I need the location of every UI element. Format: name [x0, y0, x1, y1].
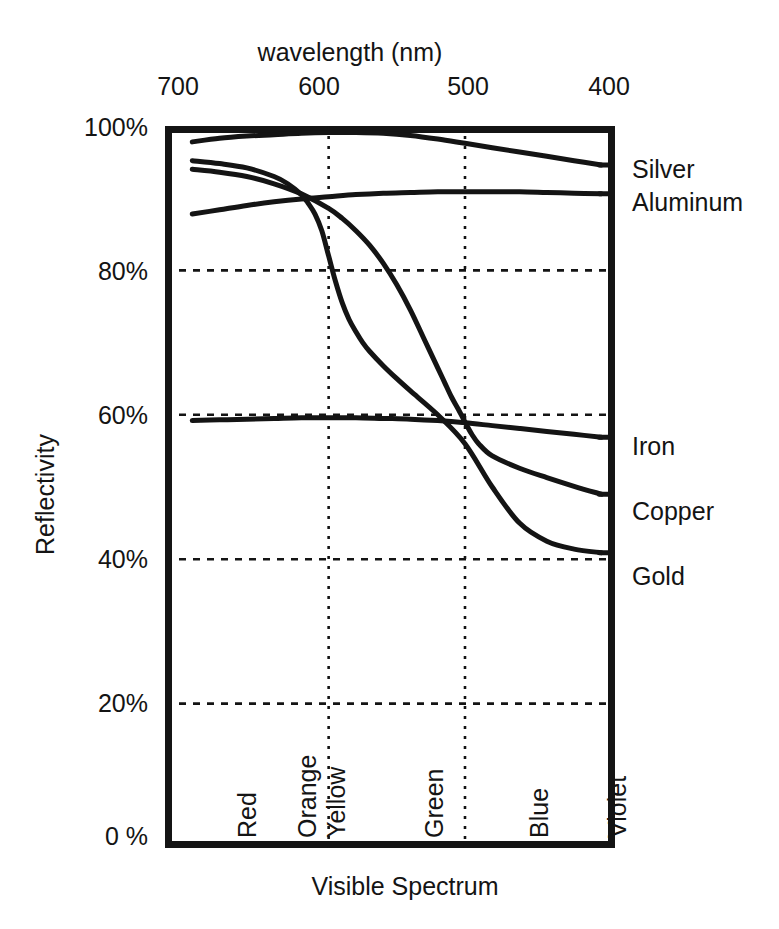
y-tick-label-100: 100% — [38, 113, 148, 142]
x-axis-title-top: wavelength (nm) — [0, 38, 700, 67]
band-label-blue: Blue — [525, 788, 554, 838]
plot-canvas — [165, 126, 615, 848]
x-tick-label-400: 400 — [564, 72, 654, 101]
band-label-violet: Violet — [603, 776, 632, 838]
band-label-yellow: Yellow — [322, 767, 351, 838]
band-label-red: Red — [233, 792, 262, 838]
y-tick-label-20: 20% — [38, 689, 148, 718]
series-label-silver: Silver — [632, 155, 695, 184]
series-curves — [192, 132, 601, 552]
series-label-copper: Copper — [632, 497, 714, 526]
x-tick-label-500: 500 — [423, 72, 513, 101]
series-label-gold: Gold — [632, 562, 685, 591]
y-tick-label-40: 40% — [38, 545, 148, 574]
series-end-ticks — [599, 165, 615, 553]
series-label-aluminum: Aluminum — [632, 188, 743, 217]
gridlines — [165, 126, 615, 848]
series-label-iron: Iron — [632, 432, 675, 461]
x-tick-label-600: 600 — [274, 72, 364, 101]
band-label-orange: Orange — [293, 755, 322, 838]
y-tick-label-60: 60% — [38, 401, 148, 430]
y-tick-label-80: 80% — [38, 257, 148, 286]
x-axis-title-bottom: Visible Spectrum — [55, 872, 755, 901]
y-tick-label-0: 0 % — [38, 822, 148, 851]
band-label-green: Green — [420, 769, 449, 838]
reflectivity-chart-figure: wavelength (nm) 700 600 500 400 Reflecti… — [0, 0, 779, 929]
x-tick-label-700: 700 — [133, 72, 223, 101]
